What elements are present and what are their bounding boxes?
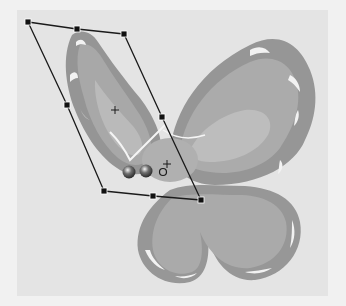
- handle-middle-right[interactable]: [159, 114, 165, 120]
- handle-top-right[interactable]: [121, 31, 127, 37]
- sphere-2: [140, 165, 153, 178]
- workspace: [0, 0, 346, 306]
- handle-middle-left[interactable]: [64, 102, 70, 108]
- sphere-1: [123, 166, 136, 179]
- artwork-layer: [0, 0, 346, 306]
- handle-top-middle[interactable]: [74, 26, 80, 32]
- handle-bottom-right[interactable]: [198, 197, 204, 203]
- handle-bottom-middle[interactable]: [150, 193, 156, 199]
- handle-bottom-left[interactable]: [101, 188, 107, 194]
- lower-wings[interactable]: [138, 185, 301, 283]
- handle-top-left[interactable]: [25, 19, 31, 25]
